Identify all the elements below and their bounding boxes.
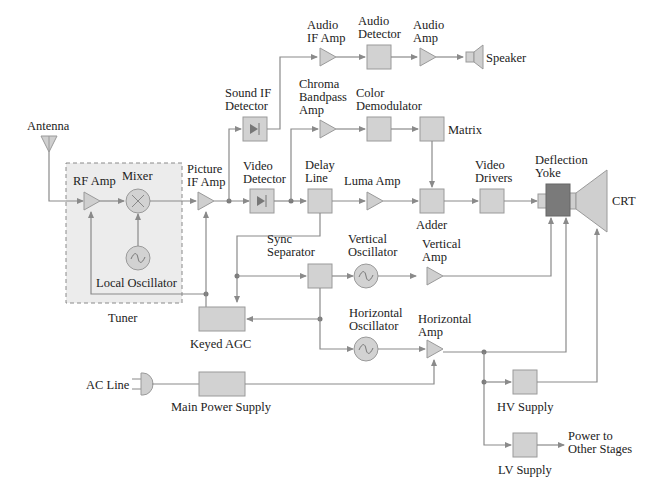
speaker-label: Speaker (486, 51, 527, 65)
audio-amp-triangle (420, 48, 436, 66)
rf-amp-label: RF Amp (73, 174, 116, 188)
crt-label: CRT (612, 194, 636, 208)
vertical-oscillator-icon (354, 264, 378, 288)
sync-separator-label-1: Sync (267, 232, 292, 246)
adder-label: Adder (416, 218, 448, 232)
chroma-label-1: Chroma (299, 77, 340, 91)
antenna-label: Antenna (27, 119, 70, 133)
luma-amp-triangle (367, 192, 383, 210)
power-out-label-2: Other Stages (568, 442, 632, 456)
horizontal-amp-triangle (427, 340, 443, 358)
vertical-amp-triangle (427, 267, 443, 285)
audio-detector-label-2: Detector (358, 27, 402, 41)
horizontal-amp-label-1: Horizontal (418, 312, 472, 326)
tv-block-diagram: Tuner Antenna RF Amp Mixer Local Oscilla… (0, 0, 660, 490)
delay-line-label-2: Line (305, 171, 328, 185)
chroma-label-3: Amp (299, 103, 324, 117)
video-detector-label-1: Video (243, 159, 273, 173)
chroma-label-2: Bandpass (299, 90, 347, 104)
tuner-label: Tuner (108, 311, 138, 325)
matrix-label: Matrix (448, 123, 483, 137)
lv-supply-label: LV Supply (498, 463, 553, 477)
video-detector-label-2: Detector (243, 172, 287, 186)
sound-if-detector-label-1: Sound IF (225, 86, 271, 100)
horizontal-amp-label-2: Amp (418, 325, 443, 339)
horizontal-oscillator-icon (354, 337, 378, 361)
color-demodulator-block (367, 117, 391, 141)
hv-supply-block (513, 370, 537, 394)
audio-amp-label-2: Amp (413, 31, 438, 45)
color-demod-label-2: Demodulator (356, 99, 423, 113)
vertical-osc-label-2: Oscillator (348, 245, 398, 259)
deflection-yoke-label-2: Yoke (535, 166, 561, 180)
horizontal-osc-label-2: Oscillator (349, 319, 399, 333)
audio-if-amp-label-1: Audio (307, 18, 338, 32)
main-power-supply-label: Main Power Supply (171, 400, 272, 414)
audio-detector-label-1: Audio (358, 14, 389, 28)
deflection-yoke-label-1: Deflection (535, 153, 589, 167)
adder-block (420, 189, 444, 213)
delay-line-block (308, 189, 332, 213)
hv-supply-label: HV Supply (497, 400, 554, 414)
keyed-agc-label: Keyed AGC (190, 337, 251, 351)
sync-separator-label-2: Separator (267, 245, 316, 259)
local-oscillator-icon (126, 246, 150, 270)
audio-amp-label-1: Audio (413, 18, 444, 32)
audio-detector-block (367, 45, 391, 69)
vertical-amp-label-2: Amp (422, 250, 447, 264)
video-drivers-block (480, 189, 504, 213)
picture-if-amp-label-1: Picture (187, 162, 223, 176)
vertical-amp-label-1: Vertical (422, 237, 461, 251)
mixer-label: Mixer (122, 169, 153, 183)
chroma-amp-triangle (320, 120, 336, 138)
local-oscillator-label: Local Oscillator (96, 276, 178, 290)
deflection-yoke-block (546, 184, 570, 216)
main-power-supply-block (199, 372, 245, 396)
video-drivers-label-2: Drivers (475, 171, 513, 185)
horizontal-osc-label-1: Horizontal (349, 306, 403, 320)
picture-if-amp-label-2: IF Amp (187, 175, 226, 189)
sound-if-detector-label-2: Detector (225, 99, 269, 113)
keyed-agc-block (199, 307, 245, 331)
power-out-label-1: Power to (568, 429, 613, 443)
audio-if-amp-triangle (320, 48, 336, 66)
vertical-osc-label-1: Vertical (348, 232, 387, 246)
video-drivers-label-1: Video (475, 158, 505, 172)
speaker-icon (466, 45, 483, 69)
color-demod-label-1: Color (356, 86, 385, 100)
lv-supply-block (513, 433, 537, 457)
ac-plug-icon (132, 373, 153, 395)
mixer-icon (126, 189, 150, 213)
picture-if-amp-triangle (198, 192, 214, 210)
audio-if-amp-label-2: IF Amp (307, 31, 346, 45)
sync-separator-block (308, 264, 332, 288)
sound-if-detector-block (243, 117, 267, 141)
antenna-icon (41, 136, 57, 152)
delay-line-label-1: Delay (305, 158, 336, 172)
ac-line-label: AC Line (86, 378, 130, 392)
matrix-block (420, 117, 444, 141)
luma-amp-label: Luma Amp (344, 174, 401, 188)
video-detector-block (250, 189, 274, 213)
